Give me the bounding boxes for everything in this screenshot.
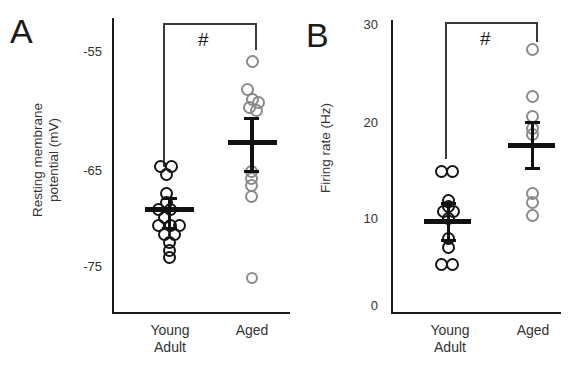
panel-b-significance-bracket-top	[445, 22, 538, 24]
panel-a-aged-mean-bar	[228, 140, 277, 145]
data-point	[446, 165, 459, 178]
panel-b-young-error-cap-bottom	[441, 239, 456, 242]
panel-a-y-axis-line	[112, 18, 114, 314]
panel-a-ytick-minus65: -65	[62, 163, 102, 178]
panel-a-young-error-cap-bottom	[162, 227, 177, 230]
panel-b-young-mean-bar	[424, 219, 471, 224]
panel-b-aged-error-cap-top	[525, 121, 540, 124]
panel-b-x-axis-line	[391, 312, 561, 314]
panel-b-xcat-aged: Aged	[493, 322, 573, 339]
panel-b-letter: B	[306, 18, 329, 52]
data-point	[442, 241, 455, 254]
panel-b-ytick-30: 30	[338, 17, 378, 32]
data-point	[250, 104, 263, 117]
panel-a: A Resting membrane potential (mV) -55 -6…	[0, 0, 290, 376]
panel-a-young-mean-bar	[145, 207, 194, 212]
data-point	[526, 196, 539, 209]
panel-b: B Firing rate (Hz) 30 20 10 0 #	[290, 0, 579, 376]
panel-b-significance-bracket-left-arm	[445, 22, 447, 159]
panel-b-xcat-young-adult: Young Adult	[400, 322, 500, 356]
data-point	[526, 43, 539, 56]
panel-b-ytick-0: 0	[338, 298, 378, 313]
panel-a-significance-bracket-left-arm	[163, 23, 165, 167]
panel-a-significance-bracket-top	[163, 23, 257, 25]
data-point	[246, 55, 259, 68]
panel-a-young-error-cap-top	[162, 197, 177, 200]
panel-b-aged-error-cap-bottom	[525, 167, 540, 170]
panel-b-ytick-20: 20	[338, 115, 378, 130]
panel-a-x-axis-line	[112, 312, 290, 314]
panel-b-y-axis-line	[391, 20, 393, 314]
data-point	[160, 168, 173, 181]
data-point	[245, 190, 258, 203]
panel-a-ytick-minus75: -75	[62, 259, 102, 274]
data-point	[526, 209, 539, 222]
panel-a-ytick-minus55: -55	[62, 44, 102, 59]
panel-b-aged-mean-bar	[508, 143, 555, 148]
figure-panels-a-b: A Resting membrane potential (mV) -55 -6…	[0, 0, 579, 376]
panel-b-ytick-10: 10	[338, 211, 378, 226]
panel-a-significance-bracket-right-arm	[255, 23, 257, 50]
panel-b-y-axis-label: Firing rate (Hz)	[318, 48, 334, 248]
panel-a-aged-error-line	[250, 118, 253, 172]
panel-a-xcat-young-adult: Young Adult	[120, 322, 220, 356]
data-point	[163, 251, 176, 264]
data-point	[446, 258, 459, 271]
panel-b-significance-marker: #	[480, 29, 491, 48]
panel-b-young-error-cap-top	[441, 202, 456, 205]
panel-a-aged-error-cap-bottom	[244, 170, 259, 173]
panel-a-young-error-line	[168, 198, 171, 228]
panel-a-y-axis-label: Resting membrane potential (mV)	[30, 40, 61, 280]
panel-a-significance-marker: #	[198, 30, 209, 49]
panel-a-aged-error-cap-top	[244, 117, 259, 120]
data-point-outlier	[246, 272, 258, 284]
panel-b-significance-bracket-right-arm	[536, 22, 538, 42]
data-point	[526, 90, 539, 103]
panel-a-xcat-aged: Aged	[212, 322, 292, 339]
